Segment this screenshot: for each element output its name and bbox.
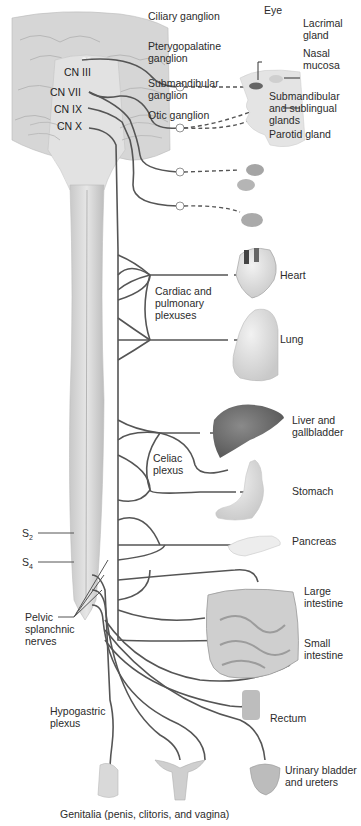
- stomach-label: Stomach: [292, 485, 333, 497]
- hypogastric-plexus-label: Hypogastric plexus: [50, 705, 115, 729]
- cn9-label: CN IX: [54, 103, 82, 115]
- s4-sub: 4: [29, 563, 33, 570]
- intestines-illustration: [206, 589, 298, 678]
- large-intestine-label: Large intestine: [304, 585, 354, 609]
- pancreas-illustration: [228, 536, 280, 556]
- liver-illustration: [213, 405, 284, 458]
- bladder-illustration: [250, 764, 280, 795]
- submandibular-sublingual-glands-label: Submandibular and sublingual glands: [269, 90, 359, 126]
- celiac-plexus-label: Celiac plexus: [153, 452, 197, 476]
- s2-label: S2: [22, 527, 33, 544]
- lung-label: Lung: [280, 333, 303, 345]
- cn7-label: CN VII: [50, 86, 81, 98]
- heart-illustration: [236, 248, 276, 298]
- salivary-glands: [237, 164, 264, 227]
- s4-base: S: [22, 556, 29, 568]
- ganglia: [176, 83, 184, 210]
- s2-base: S: [22, 527, 29, 539]
- pancreas-label: Pancreas: [292, 535, 336, 547]
- lung-illustration: [233, 309, 278, 381]
- rectum-illustration: [242, 690, 260, 720]
- liver-gallbladder-label: Liver and gallbladder: [292, 414, 358, 438]
- lacrimal-gland-label: Lacrimal gland: [303, 17, 353, 41]
- heart-label: Heart: [280, 269, 306, 281]
- pterygopalatine-ganglion-label: Pterygopalatine ganglion: [148, 40, 228, 64]
- rectum-label: Rectum: [270, 712, 306, 724]
- submandibular-ganglion-label: Submandibular ganglion: [148, 77, 222, 101]
- small-intestine-label: Small intestine: [304, 637, 354, 661]
- cardiac-pulmonary-plexuses-label: Cardiac and pulmonary plexuses: [155, 285, 225, 321]
- parotid-gland-label: Parotid gland: [269, 128, 331, 140]
- genitalia-illustration: [98, 760, 205, 800]
- ciliary-ganglion-label: Ciliary ganglion: [148, 10, 220, 22]
- brain: [12, 12, 170, 190]
- eye-label: Eye: [264, 4, 282, 16]
- genitalia-label: Genitalia (penis, clitoris, and vagina): [60, 808, 229, 820]
- urinary-bladder-label: Urinary bladder and ureters: [285, 764, 357, 788]
- spinal-cord: [70, 185, 105, 620]
- cn3-label: CN III: [64, 66, 91, 78]
- s4-label: S4: [22, 556, 33, 573]
- nasal-mucosa-label: Nasal mucosa: [303, 47, 355, 71]
- s2-sub: 2: [29, 534, 33, 541]
- otic-ganglion-label: Otic ganglion: [148, 109, 209, 121]
- stomach-illustration: [216, 460, 264, 520]
- cn10-label: CN X: [57, 120, 82, 132]
- pelvic-splanchnic-nerves-label: Pelvic splanchnic nerves: [25, 611, 85, 647]
